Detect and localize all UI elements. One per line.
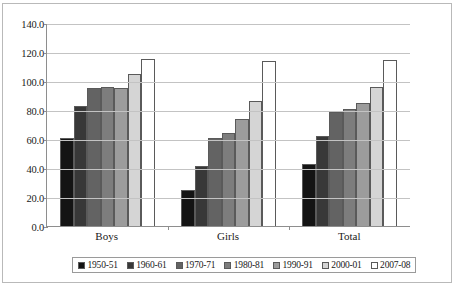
bar-2000-01-boys (128, 74, 142, 226)
plot-area (46, 24, 410, 227)
bar-group-boys (47, 24, 168, 226)
bars (289, 24, 410, 226)
legend-swatch-icon (127, 262, 134, 269)
legend-swatch-icon (322, 262, 329, 269)
legend-swatch-icon (371, 262, 378, 269)
bar-1950-51-total (302, 164, 316, 226)
y-axis: 140.0120.0100.080.060.040.020.00.0 (0, 24, 44, 227)
y-axis-tick-label: 120.0 (0, 48, 44, 59)
legend-item-2000-01[interactable]: 2000-01 (322, 260, 362, 270)
category-label-girls: Girls (167, 230, 288, 250)
gridline (47, 111, 410, 112)
bar-chart-figure: 140.0120.0100.080.060.040.020.00.0 BoysG… (0, 0, 456, 286)
y-axis-tick-label: 60.0 (0, 135, 44, 146)
bar-2000-01-girls (249, 101, 263, 226)
legend-swatch-icon (224, 262, 231, 269)
legend-label: 2007-08 (380, 260, 410, 270)
y-axis-tick-label: 0.0 (0, 222, 44, 233)
bar-1990-91-boys (114, 88, 128, 226)
gridline (47, 82, 410, 83)
y-axis-tick-label: 100.0 (0, 77, 44, 88)
gridline (47, 53, 410, 54)
y-axis-tick-label: 140.0 (0, 19, 44, 30)
bar-1980-81-total (343, 109, 357, 226)
bar-2007-08-boys (141, 59, 155, 226)
bar-group-girls (168, 24, 289, 226)
chart-legend: 1950-511960-611970-711980-811990-912000-… (72, 257, 416, 273)
bar-1960-61-boys (74, 106, 88, 226)
bar-1980-81-boys (101, 87, 115, 226)
bars (168, 24, 289, 226)
x-axis-category-labels: BoysGirlsTotal (46, 230, 410, 250)
category-label-total: Total (289, 230, 410, 250)
legend-item-1990-91[interactable]: 1990-91 (273, 260, 313, 270)
bar-1970-71-boys (87, 88, 101, 226)
legend-swatch-icon (273, 262, 280, 269)
gridline (47, 227, 410, 228)
bar-1950-51-boys (60, 138, 74, 226)
legend-item-1950-51[interactable]: 1950-51 (78, 260, 118, 270)
gridline (47, 169, 410, 170)
legend-label: 1950-51 (88, 260, 118, 270)
bar-2007-08-girls (262, 61, 276, 226)
category-label-boys: Boys (46, 230, 167, 250)
legend-swatch-icon (176, 262, 183, 269)
legend-label: 1970-71 (185, 260, 215, 270)
gridline (47, 140, 410, 141)
gridline (47, 24, 410, 25)
bar-1970-71-girls (208, 138, 222, 226)
legend-item-2007-08[interactable]: 2007-08 (371, 260, 411, 270)
legend-swatch-icon (78, 262, 85, 269)
y-axis-tick-label: 20.0 (0, 193, 44, 204)
legend-item-1970-71[interactable]: 1970-71 (176, 260, 216, 270)
bar-group-total (289, 24, 410, 226)
legend-label: 1960-61 (136, 260, 166, 270)
bar-1990-91-girls (235, 119, 249, 226)
legend-label: 1980-81 (234, 260, 264, 270)
y-axis-tick-label: 40.0 (0, 164, 44, 175)
y-axis-tick-label: 80.0 (0, 106, 44, 117)
bar-groups (47, 24, 410, 226)
bar-1950-51-girls (181, 190, 195, 226)
bar-1980-81-girls (222, 133, 236, 226)
legend-label: 1990-91 (283, 260, 313, 270)
legend-item-1960-61[interactable]: 1960-61 (127, 260, 167, 270)
legend-item-1980-81[interactable]: 1980-81 (224, 260, 264, 270)
bar-1960-61-total (316, 136, 330, 226)
bar-2000-01-total (370, 87, 384, 226)
bar-2007-08-total (383, 60, 397, 226)
bar-1960-61-girls (195, 166, 209, 226)
legend-label: 2000-01 (331, 260, 361, 270)
bars (47, 24, 168, 226)
gridline (47, 198, 410, 199)
bar-1990-91-total (356, 103, 370, 226)
